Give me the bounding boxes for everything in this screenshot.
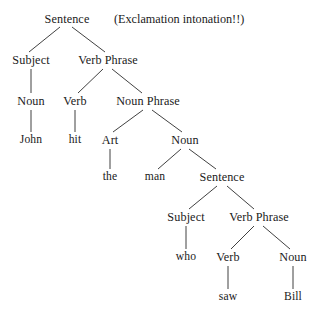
tree-node-subject-2: Subject <box>167 211 204 223</box>
tree-node-verb-1: Verb <box>63 95 86 107</box>
tree-node-who: who <box>176 251 196 263</box>
tree-node-vp-1: Verb Phrase <box>78 54 138 66</box>
tree-edge-s-embedded-to-subject-2 <box>189 186 217 209</box>
tree-node-the: the <box>103 171 117 183</box>
tree-edges-layer <box>0 0 323 316</box>
edges-group <box>29 27 293 289</box>
tree-node-s-embedded: Sentence <box>200 171 245 183</box>
intonation-annotation: (Exclamation intonation!!) <box>114 13 244 25</box>
tree-edge-s-root-to-vp-1 <box>72 27 105 52</box>
tree-edge-noun-2-to-man <box>158 149 181 169</box>
tree-node-subject-1: Subject <box>12 54 49 66</box>
tree-node-art-1: Art <box>102 134 119 146</box>
syntax-tree-figure: SentenceSubjectVerb PhraseNounVerbNoun P… <box>0 0 323 316</box>
tree-edge-vp-1-to-verb-1 <box>78 69 103 93</box>
tree-edge-s-embedded-to-vp-2 <box>227 186 254 209</box>
tree-node-hit: hit <box>69 134 82 146</box>
tree-node-bill: Bill <box>284 291 302 303</box>
tree-node-noun-1: Noun <box>17 95 44 107</box>
tree-node-s-root: Sentence <box>45 13 90 25</box>
tree-node-john: John <box>20 134 42 146</box>
tree-node-vp-2: Verb Phrase <box>229 211 289 223</box>
tree-edge-s-root-to-subject-1 <box>29 27 60 52</box>
tree-edge-vp-1-to-np-1 <box>112 69 142 93</box>
tree-edge-np-1-to-art-1 <box>113 110 143 132</box>
tree-node-noun-2: Noun <box>171 134 198 146</box>
tree-edge-np-1-to-noun-2 <box>152 110 182 132</box>
tree-edge-vp-2-to-verb-2 <box>231 226 254 249</box>
tree-node-noun-3: Noun <box>279 251 306 263</box>
tree-node-np-1: Noun Phrase <box>116 95 180 107</box>
tree-edge-vp-2-to-noun-3 <box>263 226 290 249</box>
tree-node-man: man <box>145 171 165 183</box>
tree-edge-noun-2-to-s-embedded <box>189 149 216 169</box>
tree-node-verb-2: Verb <box>216 251 239 263</box>
tree-node-saw: saw <box>219 291 237 303</box>
